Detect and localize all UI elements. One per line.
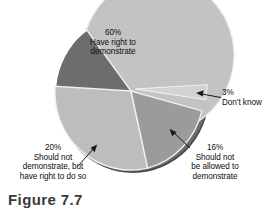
slice-text-dont-know-1: Don't know xyxy=(222,98,268,108)
slice-label-dont-know: 3% Don't know xyxy=(222,88,268,107)
slice-percent-have-right: 60% xyxy=(74,28,152,38)
slice-label-should-not-but-right: 20% Should not demonstrate, but have rig… xyxy=(2,143,104,181)
slice-text-should-not-but-right-1: Should not xyxy=(2,153,104,163)
figure-caption: Figure 7.7 xyxy=(8,192,128,208)
slice-text-should-not-but-right-3: have right to do so xyxy=(2,172,104,182)
slice-percent-dont-know: 3% xyxy=(222,88,268,98)
slice-text-not-allowed-3: demonstrate xyxy=(176,172,254,182)
slice-label-have-right: 60% Have right to demonstrate xyxy=(74,28,152,57)
slice-text-have-right-2: demonstrate xyxy=(74,47,152,57)
slice-text-not-allowed-2: be allowed to xyxy=(176,162,254,172)
slice-text-should-not-but-right-2: demonstrate, but xyxy=(2,162,104,172)
slice-label-not-allowed: 16% Should not be allowed to demonstrate xyxy=(176,143,254,181)
slice-text-not-allowed-1: Should not xyxy=(176,153,254,163)
figure-caption-text: Figure 7.7 xyxy=(8,192,128,207)
figure-container: 60% Have right to demonstrate 3% Don't k… xyxy=(0,0,268,208)
slice-percent-not-allowed: 16% xyxy=(176,143,254,153)
slice-percent-should-not-but-right: 20% xyxy=(2,143,104,153)
slice-text-have-right-1: Have right to xyxy=(74,38,152,48)
